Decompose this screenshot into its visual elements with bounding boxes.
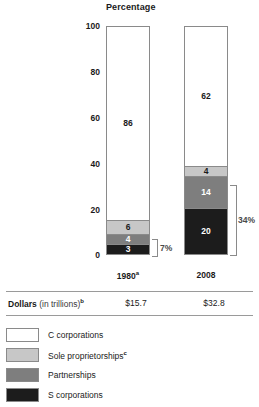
bar-1980-value-c-corporations: 86 — [123, 119, 132, 128]
legend-item-partnerships[interactable]: Partnerships — [6, 365, 253, 385]
bar-1980[interactable]: 86 6 4 3 — [106, 26, 150, 255]
legend-swatch-partnerships-icon — [6, 368, 39, 382]
bracket-label-2008: 34% — [238, 215, 255, 225]
dollars-row-label: Dollars (in trillions)b — [8, 298, 84, 309]
legend-swatch-sole-proprietorships-icon — [6, 348, 39, 362]
legend-swatch-c-corporations-icon — [6, 328, 39, 342]
bar-2008-segment-sole-proprietorships[interactable]: 4 — [185, 166, 227, 176]
x-axis-label-2008: 2008 — [176, 270, 236, 280]
legend-label-partnerships: Partnerships — [48, 370, 96, 380]
legend-label-sole-proprietorships-text: Sole proprietorships — [48, 350, 124, 360]
dollars-row-label-footnote: b — [80, 298, 84, 304]
legend-item-s-corporations[interactable]: S corporations — [6, 385, 253, 405]
y-tick-80: 80 — [76, 68, 100, 76]
x-axis-label-2008-text: 2008 — [197, 270, 216, 280]
bar-1980-value-sole-proprietorships: 6 — [126, 223, 131, 232]
bar-1980-value-partnerships: 4 — [126, 235, 131, 244]
chart-axis-title: Percentage — [106, 2, 156, 12]
dollars-row-label-bold: Dollars — [8, 299, 37, 309]
y-tick-100: 100 — [76, 22, 100, 30]
bar-2008-segment-s-corporations[interactable]: 20 — [185, 208, 227, 254]
bar-2008-value-sole-proprietorships: 4 — [204, 167, 209, 176]
bar-2008-value-s-corporations: 20 — [201, 227, 210, 236]
bracket-1980 — [152, 239, 158, 257]
bar-1980-segment-sole-proprietorships[interactable]: 6 — [107, 220, 149, 234]
chart-legend: C corporations Sole proprietorshipsc Par… — [6, 325, 253, 405]
bracket-label-1980: 7% — [160, 243, 172, 253]
stacked-bar-chart: Percentage 100 80 60 40 20 0 86 6 4 3 62… — [0, 0, 259, 292]
bar-1980-segment-s-corporations[interactable]: 3 — [107, 244, 149, 254]
dollars-value-1980: $15.7 — [106, 298, 166, 308]
x-axis-label-1980: 1980a — [98, 270, 158, 281]
bar-1980-segment-partnerships[interactable]: 4 — [107, 234, 149, 244]
x-axis-label-1980-footnote: a — [136, 270, 139, 276]
legend-label-sole-proprietorships: Sole proprietorshipsc — [48, 350, 127, 361]
bar-2008-value-c-corporations: 62 — [201, 92, 210, 101]
y-tick-60: 60 — [76, 114, 100, 122]
y-tick-0: 0 — [76, 251, 100, 259]
y-tick-20: 20 — [76, 206, 100, 214]
bar-2008-segment-c-corporations[interactable]: 62 — [185, 27, 227, 166]
bar-1980-segment-c-corporations[interactable]: 86 — [107, 27, 149, 220]
legend-item-c-corporations[interactable]: C corporations — [6, 325, 253, 345]
bar-2008-segment-partnerships[interactable]: 14 — [185, 176, 227, 208]
legend-item-sole-proprietorships[interactable]: Sole proprietorshipsc — [6, 345, 253, 365]
legend-label-sole-proprietorships-footnote: c — [124, 350, 127, 356]
bar-1980-value-s-corporations: 3 — [126, 245, 131, 254]
bracket-2008 — [230, 185, 237, 256]
legend-label-c-corporations: C corporations — [48, 330, 103, 340]
legend-label-s-corporations: S corporations — [48, 390, 103, 400]
y-axis-tick-labels: 100 80 60 40 20 0 — [70, 0, 100, 292]
legend-swatch-s-corporations-icon — [6, 388, 39, 402]
bar-2008[interactable]: 62 4 14 20 — [184, 26, 228, 255]
bar-2008-value-partnerships: 14 — [201, 188, 210, 197]
y-tick-40: 40 — [76, 160, 100, 168]
dollars-table-row: Dollars (in trillions)b $15.7 $32.8 — [6, 291, 253, 316]
dollars-value-2008: $32.8 — [184, 298, 244, 308]
x-axis-label-1980-text: 1980 — [117, 271, 136, 281]
dollars-row-label-rest: (in trillions) — [39, 299, 80, 309]
